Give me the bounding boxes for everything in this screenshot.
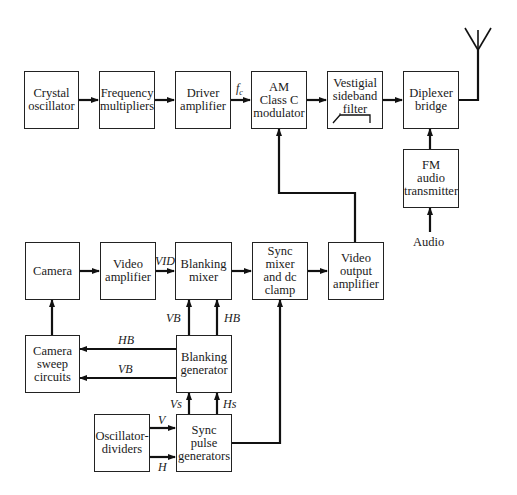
block-driver-amplifier: Driver amplifier	[175, 71, 231, 129]
block-blanking-generator: Blanking generator	[176, 335, 232, 393]
block-label: Diplexer bridge	[409, 87, 453, 113]
block-label: FM audio transmitter	[404, 159, 458, 198]
block-label: Driver amplifier	[180, 87, 226, 113]
block-blanking-mixer: Blanking mixer	[175, 242, 232, 300]
hb-left-signal-label: HB	[118, 333, 134, 348]
block-label: AM Class C modulator	[253, 81, 304, 120]
vid-signal-label: VID	[155, 254, 175, 269]
hs-signal-label: Hs	[223, 397, 236, 412]
hb-up-signal-label: HB	[224, 311, 240, 326]
block-label: Video amplifier	[105, 258, 151, 284]
block-fm-audio-transmitter: FM audio transmitter	[403, 149, 459, 208]
antenna-icon	[465, 28, 491, 50]
block-label: Camera sweep circuits	[33, 345, 72, 384]
fc-subscript: c	[239, 88, 243, 97]
block-label: Crystal oscillator	[28, 87, 75, 113]
block-label: Camera	[33, 265, 72, 278]
block-label: Blanking mixer	[181, 258, 227, 284]
block-video-amplifier: Video amplifier	[100, 242, 156, 300]
block-label: Video output amplifier	[333, 252, 379, 291]
block-am-modulator: AM Class C modulator	[251, 71, 307, 129]
block-sync-mixer-dc-clamp: Sync mixer and dc clamp	[252, 242, 308, 300]
vb-up-signal-label: VB	[166, 311, 181, 326]
block-label: Vestigial sideband filter	[333, 77, 377, 116]
vb-left-signal-label: VB	[118, 362, 133, 377]
filter-response-icon	[332, 112, 378, 124]
block-label: Frequency multipliers	[100, 87, 154, 113]
block-vsb-filter: Vestigial sideband filter	[327, 71, 383, 129]
vs-signal-label: Vs	[170, 397, 182, 412]
block-diplexer-bridge: Diplexer bridge	[403, 71, 459, 129]
block-video-output-amplifier: Video output amplifier	[328, 242, 384, 300]
block-camera-sweep-circuits: Camera sweep circuits	[25, 335, 80, 393]
h-signal-label: H	[158, 460, 167, 475]
block-label: Sync mixer and dc clamp	[253, 245, 307, 297]
block-sync-pulse-generators: Sync pulse generators	[176, 414, 232, 472]
block-label: Oscillator- dividers	[95, 430, 148, 456]
v-signal-label: V	[158, 413, 165, 428]
block-label: Blanking generator	[180, 351, 227, 377]
block-camera: Camera	[25, 242, 80, 300]
fc-signal-label: fc	[236, 81, 243, 97]
block-oscillator-dividers: Oscillator- dividers	[94, 414, 150, 472]
audio-input-label: Audio	[413, 235, 444, 250]
block-frequency-multipliers: Frequency multipliers	[99, 71, 155, 129]
block-label: Sync pulse generators	[178, 424, 230, 463]
block-crystal-oscillator: Crystal oscillator	[24, 71, 79, 129]
